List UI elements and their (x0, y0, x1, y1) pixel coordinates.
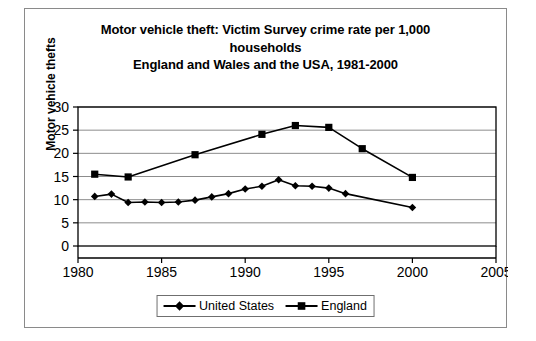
data-point-marker (342, 190, 350, 198)
y-tick-label-10: 10 (53, 192, 69, 208)
y-tick-label-30: 30 (53, 101, 69, 115)
chart-plot-svg: 051015202530198019851990199520002005 (25, 101, 508, 286)
data-point-marker (359, 145, 366, 152)
data-point-marker (91, 171, 98, 178)
x-tick-label-2005: 2005 (480, 264, 508, 280)
legend-item-united-states[interactable]: United States (162, 299, 274, 313)
data-point-marker (91, 193, 99, 201)
data-point-marker (258, 182, 266, 190)
data-point-marker (275, 176, 283, 184)
data-point-marker (108, 190, 116, 198)
data-point-marker (325, 184, 333, 192)
data-point-marker (191, 196, 199, 204)
x-tick-label-1985: 1985 (146, 264, 177, 280)
data-point-marker (258, 131, 265, 138)
data-point-marker (225, 190, 233, 198)
legend-item-england[interactable]: England (284, 299, 367, 313)
x-tick-label-1980: 1980 (62, 264, 93, 280)
chart-title-line-1: Motor vehicle theft: Victim Survey crime… (25, 21, 506, 39)
series-united-states (91, 176, 416, 211)
y-tick-label-25: 25 (53, 122, 69, 138)
y-tick-label-15: 15 (53, 169, 69, 185)
y-tick-label-5: 5 (61, 215, 69, 231)
x-tick-label-1995: 1995 (313, 264, 344, 280)
x-tick-label-2000: 2000 (397, 264, 428, 280)
chart-legend: United States England (156, 295, 375, 317)
data-point-marker (125, 173, 132, 180)
data-point-marker (409, 204, 417, 212)
y-tick-label-20: 20 (53, 145, 69, 161)
x-tick-label-1990: 1990 (230, 264, 261, 280)
legend-label-united-states: United States (199, 299, 274, 313)
series-line-0 (95, 180, 413, 208)
legend-label-england: England (321, 299, 367, 313)
plot-area: 051015202530198019851990199520002005 (25, 101, 508, 286)
data-point-marker (292, 182, 300, 190)
diamond-marker-icon (162, 299, 196, 313)
chart-title-line-3: England and Wales and the USA, 1981-2000 (25, 56, 506, 74)
data-point-marker (241, 185, 249, 193)
data-point-marker (191, 151, 198, 158)
chart-title-line-2: households (25, 39, 506, 57)
chart-container: Motor vehicle theft: Victim Survey crime… (24, 8, 507, 328)
y-tick-label-0: 0 (61, 238, 69, 254)
chart-title: Motor vehicle theft: Victim Survey crime… (25, 21, 506, 74)
data-point-marker (308, 182, 316, 190)
data-point-marker (409, 174, 416, 181)
series-england (91, 122, 416, 181)
square-marker-icon (284, 299, 318, 313)
data-point-marker (325, 124, 332, 131)
data-point-marker (292, 122, 299, 129)
